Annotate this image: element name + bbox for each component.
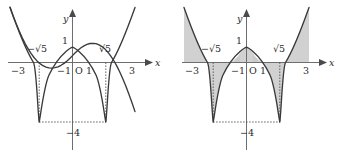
plain-graph-svg: x y −3 −1 O 1 3 1 −4 −√5 √5	[0, 0, 175, 162]
x-axis-arrowhead	[145, 59, 153, 66]
x-tick-label-pos3: 3	[303, 65, 309, 76]
x-axis-arrowhead	[319, 59, 327, 66]
x-tick-label-pos1: 1	[86, 65, 92, 76]
neg-sqrt5-label: −√5	[201, 43, 221, 54]
x-axis-label: x	[155, 57, 161, 68]
neg-sqrt5-label: −√5	[27, 43, 47, 54]
y-axis-label: y	[236, 13, 243, 24]
y-axis-arrowhead	[243, 9, 250, 17]
x-tick-label-origin: O	[75, 65, 83, 76]
x-tick-label-neg3: −3	[185, 65, 199, 76]
x-tick-label-pos1: 1	[260, 65, 266, 76]
y-tick-label-pos1: 1	[236, 35, 242, 46]
x-tick-label-neg3: −3	[11, 65, 25, 76]
y-tick-label-pos1: 1	[62, 35, 68, 46]
x-tick-label-origin: O	[249, 65, 257, 76]
x-tick-label-neg1: −1	[231, 65, 245, 76]
pos-sqrt5-label: √5	[273, 43, 285, 54]
pos-sqrt5-label: √5	[99, 43, 111, 54]
shaded-graph-svg: x y −3 −1 O 1 3 1 −4 −√5 √5	[174, 0, 349, 162]
y-tick-label-neg4: −4	[66, 127, 80, 138]
x-axis-label: x	[329, 57, 335, 68]
y-axis-label: y	[62, 13, 69, 24]
x-tick-label-neg1: −1	[57, 65, 71, 76]
y-tick-label-neg4: −4	[240, 127, 254, 138]
panel-shaded-graph: x y −3 −1 O 1 3 1 −4 −√5 √5	[174, 0, 349, 162]
figure-container: x y −3 −1 O 1 3 1 −4 −√5 √5	[0, 0, 349, 162]
panel-plain-graph: x y −3 −1 O 1 3 1 −4 −√5 √5	[0, 0, 175, 162]
x-tick-label-pos3: 3	[129, 65, 135, 76]
y-axis-arrowhead	[69, 9, 76, 17]
